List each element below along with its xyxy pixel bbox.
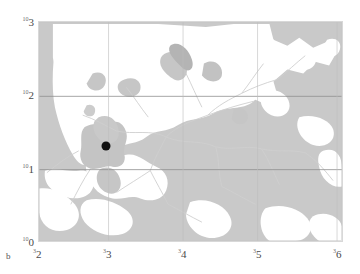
x-tick-label-3: 33 [103,248,112,260]
y-tick-label-1: 101 [8,163,34,175]
x-tick-label-4: 34 [178,248,187,260]
x-tick-label-5: 35 [253,248,262,260]
x-tick-value-2: 2 [36,248,42,260]
panel-letter-label: b [6,251,11,261]
y-tick-value-1: 1 [29,163,35,175]
y-tick-label-3: 103 [8,16,34,28]
map-plot-area[interactable] [38,21,343,242]
x-tick-label-6: 36 [333,248,342,260]
x-tick-value-3: 3 [106,248,112,260]
y-tick-value-0: 0 [29,236,35,248]
x-tick-label-2: 32 [33,248,42,260]
x-tick-value-6: 6 [336,248,342,260]
site-marker-dot[interactable] [101,141,110,150]
y-tick-value-2: 2 [29,89,35,101]
marker-layer [39,22,342,241]
y-tick-label-0: 100 [8,236,34,248]
x-tick-value-5: 5 [256,248,262,260]
y-tick-label-2: 102 [8,89,34,101]
x-tick-value-4: 4 [181,248,187,260]
y-tick-value-3: 3 [29,16,35,28]
figure-panel: b 103 102 101 100 32 33 34 35 36 [0,0,360,274]
